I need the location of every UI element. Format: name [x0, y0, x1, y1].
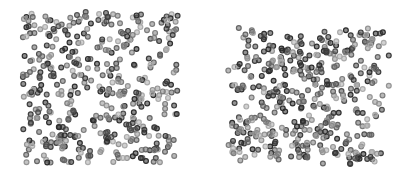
particle — [370, 150, 375, 155]
particle — [268, 68, 273, 73]
particle — [252, 152, 257, 157]
particle — [283, 83, 288, 88]
particle — [100, 87, 105, 92]
particle — [348, 161, 353, 166]
particle — [152, 125, 157, 130]
particle — [69, 99, 74, 104]
particle — [152, 36, 157, 41]
particle — [355, 134, 360, 139]
particle — [163, 149, 168, 154]
particle — [255, 127, 260, 132]
particle — [355, 110, 360, 115]
particle — [331, 83, 336, 88]
particle — [374, 67, 379, 72]
particle — [237, 129, 242, 134]
particle — [243, 32, 248, 37]
particle — [345, 132, 350, 137]
particle — [38, 88, 43, 93]
particle — [72, 84, 77, 89]
particle — [299, 105, 304, 110]
particle — [305, 140, 310, 145]
particle — [116, 79, 121, 84]
particle — [364, 33, 369, 38]
particle — [121, 111, 126, 116]
particle — [172, 154, 177, 159]
particle — [375, 151, 380, 156]
particle — [133, 151, 138, 156]
particle — [117, 93, 122, 98]
particle — [65, 32, 70, 37]
particle — [362, 65, 367, 70]
particle — [47, 120, 52, 125]
particle — [298, 68, 303, 73]
particle — [338, 30, 343, 35]
particle — [294, 90, 299, 95]
particle — [367, 70, 372, 75]
particle — [160, 89, 165, 94]
particle — [250, 147, 255, 152]
particle — [333, 57, 338, 62]
particle — [130, 33, 135, 38]
particle — [298, 133, 303, 138]
particle — [47, 55, 52, 60]
particle — [365, 117, 370, 122]
particle — [50, 44, 55, 49]
particle — [369, 132, 374, 137]
particle — [243, 155, 248, 160]
particle — [344, 28, 349, 33]
particle — [297, 150, 302, 155]
particle — [246, 43, 251, 48]
particle — [45, 160, 50, 165]
particle — [88, 153, 93, 158]
particle — [269, 122, 274, 127]
particle — [32, 23, 37, 28]
particle — [121, 156, 126, 161]
particle — [290, 50, 295, 55]
particle — [308, 73, 313, 78]
particle — [290, 101, 295, 106]
particle — [343, 50, 348, 55]
particle — [297, 49, 302, 54]
particle — [348, 92, 353, 97]
particle — [174, 112, 179, 117]
particle — [372, 159, 377, 164]
particle — [44, 92, 49, 97]
particle — [107, 37, 112, 42]
particle — [249, 95, 254, 100]
particle — [85, 34, 90, 39]
particle — [289, 154, 294, 159]
particle — [334, 96, 339, 101]
particle — [78, 141, 83, 146]
particle — [98, 131, 103, 136]
particle — [156, 97, 161, 102]
particle — [257, 84, 262, 89]
particle — [139, 97, 144, 102]
particle — [56, 125, 61, 130]
particle — [132, 62, 137, 67]
particle — [314, 52, 319, 57]
particle — [118, 57, 123, 62]
particle — [153, 31, 158, 36]
particle — [259, 74, 264, 79]
particle — [24, 73, 29, 78]
particle — [26, 24, 31, 29]
particle — [34, 116, 39, 121]
particle — [49, 73, 54, 78]
particle — [356, 120, 361, 125]
particle — [126, 29, 131, 34]
particle — [285, 50, 290, 55]
particle — [75, 91, 80, 96]
particle — [272, 110, 277, 115]
particle — [354, 82, 359, 87]
particle — [22, 17, 27, 22]
particle — [74, 61, 79, 66]
particle — [71, 108, 76, 113]
particle — [312, 104, 317, 109]
particle — [57, 118, 62, 123]
right-particle-cluster — [226, 26, 391, 167]
particle — [277, 84, 282, 89]
particle — [43, 25, 48, 30]
particle — [91, 118, 96, 123]
particle — [54, 37, 59, 42]
particle-scene — [0, 0, 406, 174]
